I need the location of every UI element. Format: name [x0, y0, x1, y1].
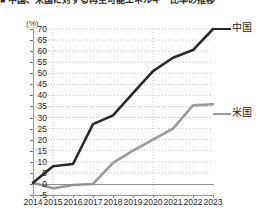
y-axis-tick-label: 45	[23, 80, 47, 89]
x-axis-tick-mark	[133, 195, 134, 198]
y-axis-tick-mark	[30, 118, 33, 119]
y-axis-tick-label: 15	[23, 147, 47, 156]
x-axis-tick-mark	[113, 195, 114, 198]
x-axis-tick-mark	[153, 195, 154, 198]
y-axis-tick-mark	[30, 129, 33, 130]
y-axis-tick-mark	[30, 162, 33, 163]
y-axis-tick-mark	[30, 151, 33, 152]
y-axis-tick-mark	[30, 140, 33, 141]
y-axis-tick-label: 40	[23, 91, 47, 100]
y-axis-tick-label: 30	[23, 114, 47, 123]
y-axis-tick-label: 50	[23, 69, 47, 78]
y-axis-tick-mark	[30, 62, 33, 63]
y-axis-tick-label: 55	[23, 58, 47, 67]
y-axis-tick-label: 25	[23, 125, 47, 134]
legend-leader-usa	[213, 113, 231, 115]
y-axis-tick-label: 60	[23, 47, 47, 56]
x-axis-tick-mark	[173, 195, 174, 198]
y-axis-tick-mark	[30, 51, 33, 52]
y-axis-tick-mark	[30, 40, 33, 41]
y-axis-tick-label: 65	[23, 36, 47, 45]
headline-text: ■ 中国、米国に対する再生可能エネルギー比率の推移	[0, 0, 262, 5]
y-axis-tick-mark	[30, 84, 33, 85]
line-chart: (%) 7065605550454035302520151050-5 20142…	[0, 9, 262, 220]
y-axis-tick-label: 10	[23, 158, 47, 167]
y-axis-tick-mark	[30, 29, 33, 30]
headline-strip: ■ 中国、米国に対する再生可能エネルギー比率の推移	[0, 0, 262, 9]
x-axis-tick-mark	[73, 195, 74, 198]
series-line-usa	[33, 104, 213, 188]
series-line-china	[33, 29, 213, 183]
y-axis-tick-label: 70	[23, 25, 47, 34]
chart-screenshot: ■ 中国、米国に対する再生可能エネルギー比率の推移 (%) 7065605550…	[0, 0, 262, 220]
legend-label-usa: 米国	[232, 108, 252, 118]
legend-leader-china	[213, 28, 231, 30]
y-axis-tick-mark	[30, 73, 33, 74]
y-axis-tick-mark	[30, 95, 33, 96]
x-axis-tick-mark	[33, 195, 34, 198]
x-axis-tick-mark	[193, 195, 194, 198]
y-axis-tick-label: 5	[23, 169, 47, 178]
x-axis-tick-label: 2023	[198, 198, 228, 207]
legend-label-china: 中国	[232, 23, 252, 33]
zero-baseline	[33, 184, 214, 185]
y-axis-tick-mark	[30, 173, 33, 174]
x-axis-tick-mark	[53, 195, 54, 198]
y-axis-tick-mark	[30, 184, 33, 185]
y-axis-tick-label: 0	[23, 180, 47, 189]
x-axis-tick-mark	[93, 195, 94, 198]
vertical-gridlines	[53, 29, 153, 195]
y-axis-tick-label: 35	[23, 102, 47, 111]
y-axis-tick-label: 20	[23, 136, 47, 145]
y-axis-tick-mark	[30, 106, 33, 107]
plot-area	[33, 29, 213, 195]
x-axis-tick-mark	[213, 195, 214, 198]
